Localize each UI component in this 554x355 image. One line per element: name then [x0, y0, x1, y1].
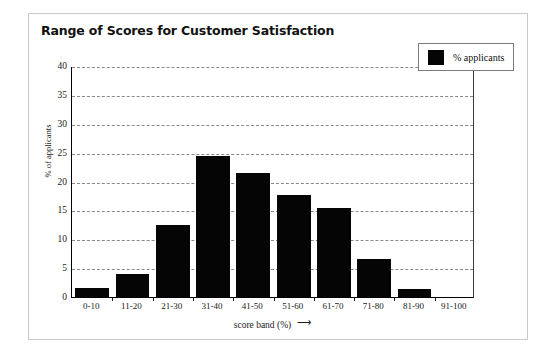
- bar: [277, 195, 311, 297]
- x-axis-tick-label: 41-50: [232, 302, 272, 311]
- x-axis-arrow-icon: ⟶: [297, 317, 311, 328]
- legend-label-applicants: % applicants: [453, 52, 504, 63]
- bar-slot: [274, 67, 314, 297]
- y-axis-tick-label: 0: [45, 293, 67, 303]
- y-axis-tick-label: 15: [45, 206, 67, 216]
- bar-slot: [153, 67, 193, 297]
- y-axis-tick-label: 40: [45, 62, 67, 72]
- bar: [75, 288, 109, 297]
- bar-slot: [112, 67, 152, 297]
- bar-slot: [233, 67, 273, 297]
- bar-slot: [435, 67, 475, 297]
- x-axis-tick-label: 11-20: [111, 302, 151, 311]
- x-axis-tick: [193, 297, 194, 301]
- x-axis-tick-label: 81-90: [393, 302, 433, 311]
- x-axis-tick-label: 61-70: [313, 302, 353, 311]
- bars-layer: [72, 67, 473, 297]
- bar: [357, 259, 391, 297]
- x-axis-tick-labels: 0-1011-2021-3031-4041-5051-6061-7071-808…: [71, 302, 474, 316]
- y-axis-tick-label: 10: [45, 235, 67, 245]
- bar-slot: [193, 67, 233, 297]
- x-axis-tick: [394, 297, 395, 301]
- bar: [317, 208, 351, 297]
- x-axis-tick-label: 0-10: [71, 302, 111, 311]
- x-axis-tick: [435, 297, 436, 301]
- y-axis-tick-label: 35: [45, 91, 67, 101]
- plot-area: [71, 67, 474, 298]
- x-axis-tick: [153, 297, 154, 301]
- legend-swatch-applicants: [428, 50, 444, 65]
- x-axis-tick-label: 31-40: [192, 302, 232, 311]
- x-axis-tick: [274, 297, 275, 301]
- x-axis-tick: [314, 297, 315, 301]
- chart-title: Range of Scores for Customer Satisfactio…: [41, 23, 334, 38]
- bar: [116, 274, 150, 297]
- bar-slot: [314, 67, 354, 297]
- x-axis-tick: [354, 297, 355, 301]
- x-axis-title: score band (%)⟶: [71, 319, 474, 330]
- x-axis-tick-label: 21-30: [152, 302, 192, 311]
- x-axis-tick-label: 91-100: [434, 302, 474, 311]
- x-axis-tick: [233, 297, 234, 301]
- y-axis-title: % of applicants: [43, 106, 53, 196]
- y-axis-tick-label: 5: [45, 264, 67, 274]
- bar: [156, 225, 190, 297]
- chart-card: Range of Scores for Customer Satisfactio…: [28, 13, 528, 340]
- bar-slot: [354, 67, 394, 297]
- bar-slot: [72, 67, 112, 297]
- x-axis-tick-label: 71-80: [353, 302, 393, 311]
- bar-slot: [394, 67, 434, 297]
- bar: [196, 156, 230, 297]
- bar: [398, 289, 432, 297]
- bar: [236, 173, 270, 297]
- chart-legend: % applicants: [418, 43, 514, 71]
- x-axis-tick: [112, 297, 113, 301]
- x-axis-title-text: score band (%): [234, 320, 292, 330]
- x-axis-tick-label: 51-60: [273, 302, 313, 311]
